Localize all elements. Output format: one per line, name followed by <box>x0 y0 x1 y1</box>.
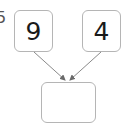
right-arrow <box>70 52 101 80</box>
left-arrow <box>34 52 65 80</box>
answer-box[interactable] <box>41 82 96 123</box>
